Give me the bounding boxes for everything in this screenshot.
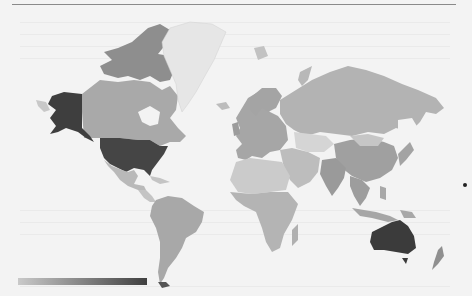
region-svalbard[interactable]	[254, 46, 268, 60]
region-tasmania[interactable]	[402, 258, 408, 264]
legend-gradient-bar	[18, 278, 147, 285]
region-south-america[interactable]	[150, 196, 204, 284]
region-japan[interactable]	[398, 142, 414, 166]
map-marker-dot	[463, 183, 467, 187]
region-madagascar[interactable]	[292, 224, 298, 246]
map-page	[0, 0, 472, 296]
region-papua-new-guinea[interactable]	[400, 210, 416, 218]
region-north-africa[interactable]	[230, 158, 290, 194]
region-australia[interactable]	[370, 220, 416, 254]
world-map	[0, 0, 472, 296]
region-canada[interactable]	[82, 80, 186, 146]
region-aleutians[interactable]	[36, 100, 50, 112]
region-tierra-del-fuego[interactable]	[158, 282, 170, 288]
region-sub-saharan-africa[interactable]	[230, 192, 298, 252]
region-iceland[interactable]	[216, 102, 230, 110]
color-legend	[18, 270, 147, 277]
region-kazakhstan[interactable]	[294, 132, 334, 152]
region-new-zealand[interactable]	[432, 246, 444, 270]
region-philippines[interactable]	[380, 186, 386, 200]
region-indonesia[interactable]	[352, 208, 398, 222]
